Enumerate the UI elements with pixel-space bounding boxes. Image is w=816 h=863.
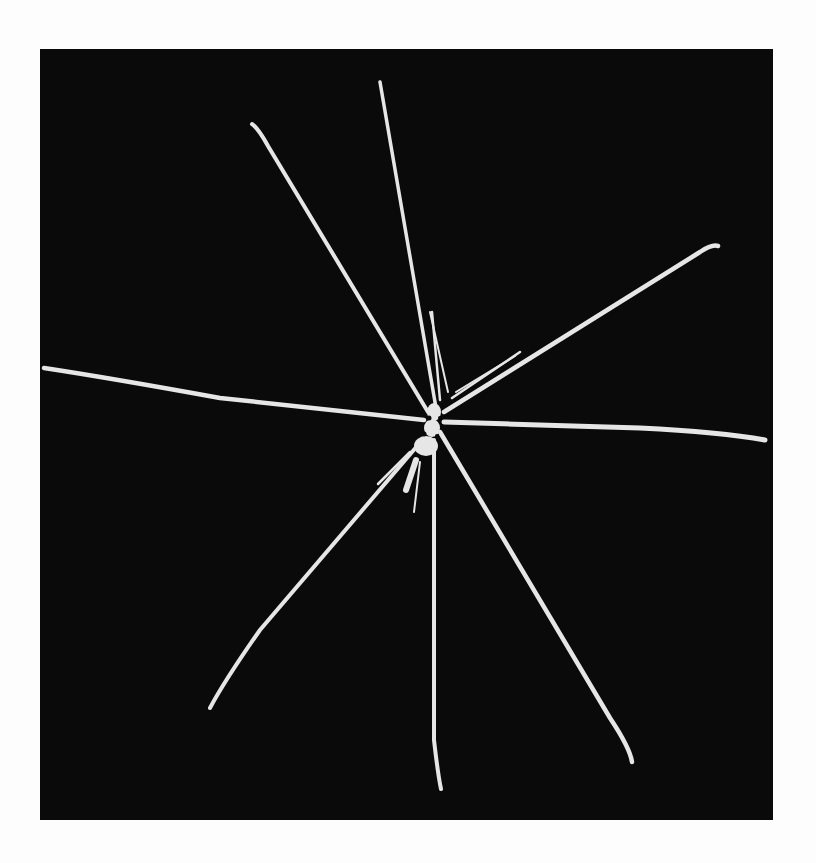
- leg-upper: [380, 82, 436, 408]
- specimen-photo: [40, 49, 773, 820]
- leg-lower-left: [210, 438, 424, 708]
- leg-lower-right: [440, 432, 632, 762]
- leg-lower: [434, 440, 441, 789]
- leg-right: [444, 422, 765, 440]
- leg-upper-right: [444, 246, 718, 412]
- leg-upper-left: [252, 124, 428, 412]
- sea-spider-illustration: [40, 49, 773, 820]
- leg-left: [44, 368, 424, 420]
